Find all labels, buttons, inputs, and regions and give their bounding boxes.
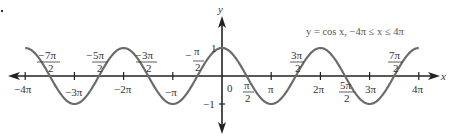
y-axis <box>218 16 226 134</box>
svg-text:−: − <box>38 49 44 61</box>
y-tick-label-neg1: −1 <box>203 98 215 110</box>
svg-text:2: 2 <box>195 61 201 73</box>
svg-text:−: − <box>86 49 92 61</box>
svg-text:2: 2 <box>146 62 152 74</box>
svg-text:2: 2 <box>245 92 251 104</box>
y-tick-label-1: 1 <box>211 42 217 54</box>
svg-text:2: 2 <box>295 62 301 74</box>
x-tick-label-4pi: 4π <box>412 83 424 95</box>
x-tick-label-neg3pi-2: − 3π 2 <box>135 49 157 74</box>
x-tick-label-3pi: 3π <box>365 83 377 95</box>
x-tick-label-pi: π <box>268 83 274 95</box>
svg-text:2: 2 <box>48 62 54 74</box>
x-tick-label-3pi-2: 3π 2 <box>290 49 304 74</box>
svg-text:3π: 3π <box>142 49 154 61</box>
y-axis-label: y <box>217 3 223 15</box>
svg-text:2: 2 <box>344 92 350 104</box>
svg-text:7π: 7π <box>45 49 57 61</box>
stray-dot <box>1 10 3 12</box>
x-tick-label-7pi-2: 7π 2 <box>388 49 403 74</box>
svg-text:π: π <box>194 45 200 57</box>
svg-text:5π: 5π <box>93 49 105 61</box>
x-tick-label-neg3pi: −3π <box>65 86 83 98</box>
x-tick-label-neg2pi: −2π <box>114 83 132 95</box>
x-tick-label-negpi: −π <box>165 86 177 98</box>
svg-text:7π: 7π <box>389 49 401 61</box>
svg-text:3π: 3π <box>291 49 303 61</box>
svg-text:5π: 5π <box>340 79 352 91</box>
x-axis-label: x <box>440 70 446 82</box>
x-tick-label-5pi-2: 5π 2 <box>339 79 354 104</box>
cosine-chart: y = cos x, −4π ≤ x ≤ 4π y x 1 −1 0 −4π −… <box>0 0 450 140</box>
svg-text:−: − <box>185 49 191 61</box>
x-tick-label-neg4pi: −4π <box>14 83 32 95</box>
x-axis <box>8 72 440 80</box>
svg-text:2: 2 <box>393 62 399 74</box>
svg-text:−: − <box>135 49 141 61</box>
x-tick-label-pi-2: π 2 <box>243 79 254 104</box>
svg-text:2: 2 <box>97 62 103 74</box>
origin-label: 0 <box>227 82 233 94</box>
x-tick-label-2pi: 2π <box>313 83 325 95</box>
chart-title: y = cos x, −4π ≤ x ≤ 4π <box>306 26 405 37</box>
x-tick-label-neg5pi-2: − 5π 2 <box>86 49 108 74</box>
svg-text:π: π <box>244 79 250 91</box>
